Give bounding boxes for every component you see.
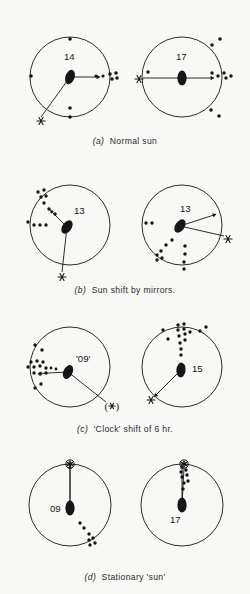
dot-cluster	[146, 37, 232, 118]
data-dot	[32, 371, 35, 374]
panel-b-caption: (b) Sun shift by mirrors.	[0, 285, 250, 295]
dot-cluster	[161, 322, 207, 356]
data-dot	[179, 470, 182, 473]
panel-b-caption-text: Sun shift by mirrors.	[86, 285, 175, 295]
data-dot	[216, 74, 219, 77]
dot-cluster	[179, 468, 189, 490]
data-dot	[40, 348, 43, 351]
data-dot	[150, 221, 153, 224]
data-dot	[78, 521, 81, 524]
data-dot	[155, 253, 158, 256]
panel-c-right: 15	[142, 322, 222, 407]
data-dot	[229, 74, 232, 77]
data-dot	[33, 343, 36, 346]
data-dot	[36, 190, 39, 193]
activity-blob	[65, 501, 74, 516]
panel-b: 1313	[26, 185, 232, 280]
data-dot	[101, 74, 104, 77]
activity-blob	[176, 362, 186, 378]
data-dot	[164, 243, 167, 246]
activity-blob	[177, 498, 186, 513]
heading-label: 17	[176, 51, 187, 62]
data-dot	[44, 366, 47, 369]
figure-canvas: 14171313'09'()150917	[0, 0, 250, 594]
heading-label: '09'	[76, 353, 91, 364]
data-dot	[115, 76, 119, 80]
panel-b-caption-label: (b)	[75, 285, 87, 295]
panel-d-caption-label: (d)	[85, 572, 97, 582]
data-dot	[210, 43, 214, 47]
sun-azimuth-line	[180, 226, 224, 236]
data-dot	[177, 334, 180, 337]
data-dot	[82, 526, 85, 529]
data-dot	[44, 223, 47, 226]
svg-text:): )	[116, 400, 120, 413]
sun-azimuth-line	[41, 77, 70, 117]
data-dot	[68, 106, 72, 110]
data-dot	[179, 353, 182, 356]
data-dot	[87, 538, 90, 541]
data-dot	[184, 468, 187, 471]
data-dot	[47, 207, 50, 210]
panel-d-caption-text: Stationary 'sun'	[96, 572, 165, 582]
data-dot	[198, 329, 201, 332]
data-dot	[159, 249, 162, 252]
sun-asterisk-icon	[37, 118, 45, 125]
panel-c-caption-text: 'Clock' shift of 6 hr.	[88, 424, 173, 434]
mean-vector-arrowhead	[211, 76, 214, 80]
panel-c-caption: (c) 'Clock' shift of 6 hr.	[0, 424, 250, 434]
data-dot	[44, 194, 47, 197]
sun-asterisk-icon	[147, 397, 155, 404]
data-dot	[144, 221, 147, 224]
heading-label: 13	[180, 203, 191, 214]
sun-paren-asterisk-icon: ()	[105, 400, 120, 413]
data-dot	[91, 536, 94, 539]
data-dot	[93, 541, 96, 544]
dot-cluster	[26, 188, 56, 226]
heading-label: 13	[74, 205, 85, 216]
orientation-figure: 14171313'09'()150917(a) Normal sun(b) Su…	[0, 0, 250, 594]
data-dot	[204, 325, 207, 328]
data-dot	[26, 365, 29, 368]
data-dot	[38, 364, 41, 367]
panel-a-caption: (a) Normal sun	[0, 136, 250, 146]
data-dot	[146, 70, 149, 73]
data-dot	[183, 338, 186, 341]
data-dot	[88, 543, 91, 546]
panel-b-left: 13	[26, 185, 110, 280]
panel-a-caption-label: (a)	[93, 136, 105, 146]
svg-text:(: (	[105, 400, 109, 413]
dot-cluster	[26, 343, 57, 389]
sun-azimuth-line	[68, 372, 106, 402]
sun-asterisk-icon	[224, 236, 232, 243]
data-dot	[94, 74, 97, 77]
data-dot	[55, 368, 58, 371]
data-dot	[183, 244, 186, 247]
data-dot	[38, 223, 41, 226]
data-dot	[42, 201, 45, 204]
panel-c: '09'()15	[26, 322, 222, 412]
panel-b-right: 13	[142, 185, 232, 271]
activity-blob	[172, 217, 188, 234]
data-dot	[38, 372, 41, 375]
panel-d-right: 17	[141, 460, 223, 546]
data-dot	[224, 76, 227, 79]
data-dot	[50, 367, 53, 370]
data-dot	[155, 258, 158, 261]
sun-asterisk-icon	[58, 274, 66, 281]
data-dot	[114, 71, 118, 75]
data-dot	[180, 475, 183, 478]
data-dot	[182, 481, 185, 484]
data-dot	[42, 188, 45, 191]
data-dot	[183, 332, 186, 335]
heading-label: 17	[170, 514, 181, 525]
data-dot	[170, 238, 173, 241]
panel-a-left: 14	[29, 37, 119, 124]
data-dot	[209, 108, 213, 112]
data-dot	[87, 532, 90, 535]
panel-c-left: '09'()	[26, 327, 119, 413]
data-dot	[39, 382, 42, 385]
data-dot	[217, 114, 221, 118]
data-dot	[218, 37, 222, 41]
data-dot	[178, 341, 181, 344]
